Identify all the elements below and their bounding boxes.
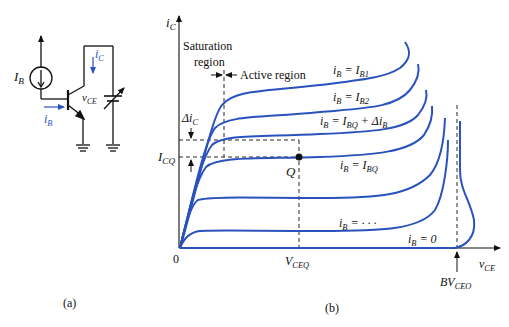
collector-current-label: iC [95,48,104,63]
x-axis-label: vCE [479,258,495,273]
origin-label: 0 [173,253,179,265]
curve-label-ib-b1: iB = IB1 [333,64,369,79]
circuit-schematic [30,36,124,151]
bvceo-label: BVCEO [440,276,471,291]
q-point-label: Q [286,165,295,178]
base-current-label: iB [44,113,52,128]
y-axis-label: iC [166,16,176,32]
curve-label-ib-b2: iB = IB2 [333,91,369,106]
curve-label-ib-dots: iB = · · · [339,217,377,232]
curve-ib-dots [180,118,445,248]
variable-source-arrow-icon [104,88,124,109]
saturation-region-label-line2: region [194,56,225,68]
vceq-label: VCEQ [285,255,309,270]
vce-source-label: vCE [82,92,97,106]
current-source-label: IB [14,70,24,86]
ground-icon [106,145,120,151]
curve-label-ib-bq-plus-delta: iB = IBQ + ΔiB [320,115,387,130]
saturation-region-label-line1: Saturation [183,40,232,52]
panel-a-caption: (a) [63,297,76,309]
active-region-label: Active region [240,69,306,81]
dashed-guides [179,70,457,248]
ground-icon [76,145,90,151]
curve-label-ib-zero: iB = 0 [408,233,437,248]
q-point-marker [296,154,303,161]
panel-b-caption: (b) [325,302,339,314]
delta-ic-label: ΔiC [182,112,198,127]
diagram-canvas [0,0,509,327]
curve-label-ib-bq: iB = IBQ [340,159,378,174]
icq-label: ICQ [158,150,175,166]
